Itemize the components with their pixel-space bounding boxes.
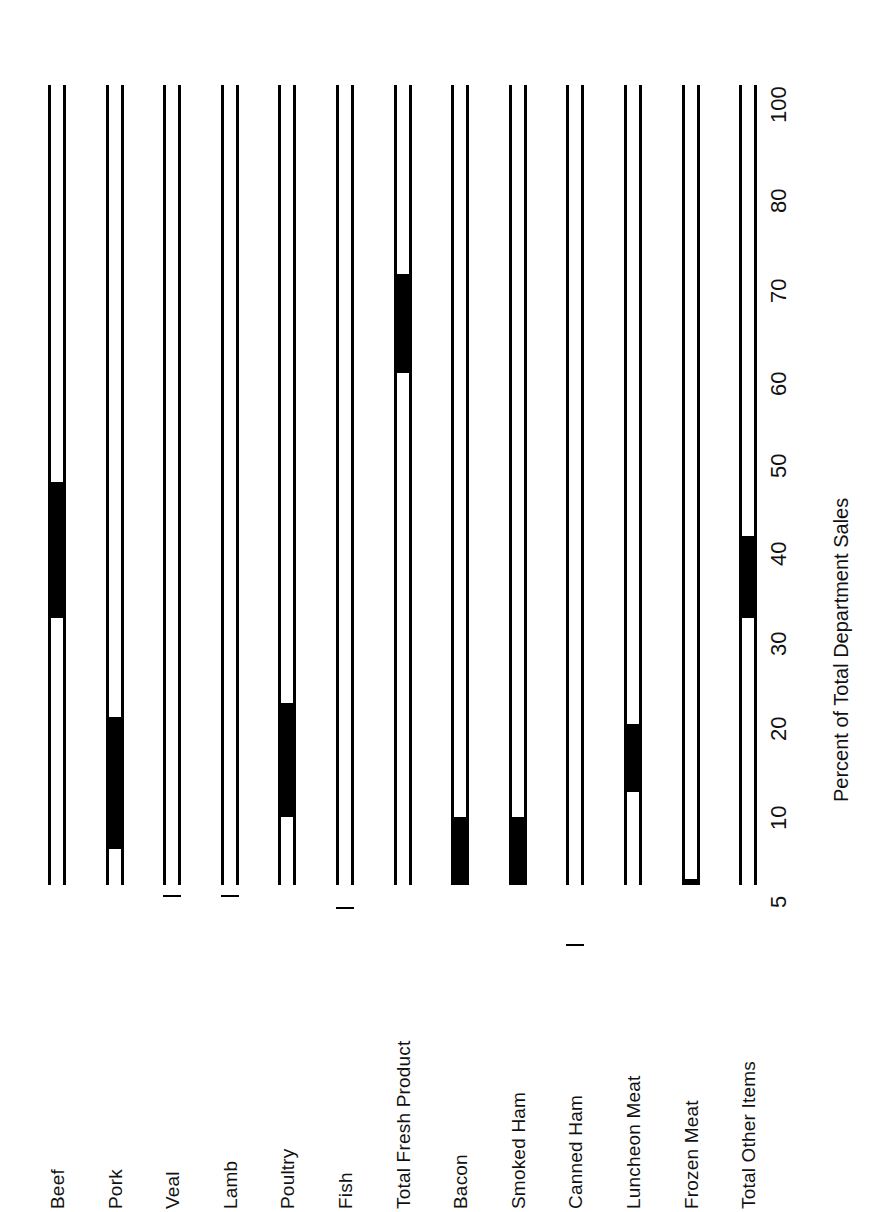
bar-total-other-items[interactable]: [739, 0, 757, 900]
bar-fill-segment: [509, 817, 527, 885]
bar-bacon[interactable]: [451, 0, 469, 900]
bar-frozen-meat[interactable]: [682, 0, 700, 900]
bar-outline: [451, 85, 469, 885]
bar-fill-segment: [106, 717, 124, 850]
category-label-smoked-ham: Smoked Ham: [509, 1092, 528, 1209]
bar-outline: [221, 85, 239, 885]
bar-canned-ham[interactable]: [566, 0, 584, 900]
chart-canvas: BeefPorkVealLambPoultryFishTotal Fresh P…: [0, 0, 881, 1212]
bar-veal[interactable]: [163, 0, 181, 900]
bar-smoked-ham[interactable]: [509, 0, 527, 900]
bar-fill-segment: [221, 895, 239, 897]
bar-fill-segment: [682, 879, 700, 885]
bar-outline: [163, 85, 181, 885]
bar-outline: [278, 85, 296, 885]
bar-fill-segment: [451, 817, 469, 885]
tick-label-5: 5: [768, 896, 790, 908]
bar-total-fresh-product[interactable]: [394, 0, 412, 900]
tick-label-40: 40: [768, 542, 790, 566]
tick-label-80: 80: [768, 189, 790, 213]
category-label-luncheon-meat: Luncheon Meat: [624, 1075, 643, 1209]
bar-fill-segment: [739, 536, 757, 618]
category-label-total-other-items: Total Other Items: [739, 1061, 758, 1209]
bar-outline: [624, 85, 642, 885]
bar-lamb[interactable]: [221, 0, 239, 900]
bar-beef[interactable]: [48, 0, 66, 900]
bar-fill-segment: [394, 274, 412, 374]
category-label-total-fresh-product: Total Fresh Product: [394, 1040, 413, 1209]
bar-fill-segment: [278, 703, 296, 817]
category-label-poultry: Poultry: [278, 1148, 297, 1209]
tick-label-70: 70: [768, 279, 790, 303]
bar-outline: [48, 85, 66, 885]
tick-label-30: 30: [768, 632, 790, 656]
tick-label-20: 20: [768, 717, 790, 741]
bar-outline: [394, 85, 412, 885]
bar-outline: [739, 85, 757, 885]
bar-outline: [682, 85, 700, 885]
bar-poultry[interactable]: [278, 0, 296, 900]
tick-label-50: 50: [768, 454, 790, 478]
category-label-fish: Fish: [336, 1172, 355, 1209]
plot-area: [0, 0, 770, 900]
category-label-frozen-meat: Frozen Meat: [682, 1100, 701, 1209]
bar-fish[interactable]: [336, 0, 354, 900]
bar-pork[interactable]: [106, 0, 124, 900]
bar-luncheon-meat[interactable]: [624, 0, 642, 900]
bar-fill-segment: [566, 944, 584, 946]
category-label-pork: Pork: [106, 1169, 125, 1209]
tick-label-100: 100: [768, 86, 790, 123]
category-label-bacon: Bacon: [451, 1154, 470, 1209]
axis-title: Percent of Total Department Sales: [831, 498, 851, 802]
category-label-veal: Veal: [163, 1171, 182, 1209]
bar-fill-segment: [624, 724, 642, 792]
category-label-lamb: Lamb: [221, 1161, 240, 1209]
bar-outline: [106, 85, 124, 885]
bar-outline: [336, 85, 354, 885]
tick-label-60: 60: [768, 372, 790, 396]
bar-outline: [566, 85, 584, 885]
category-label-canned-ham: Canned Ham: [566, 1095, 585, 1209]
tick-label-10: 10: [768, 806, 790, 830]
category-label-beef: Beef: [48, 1169, 67, 1209]
bar-fill-segment: [336, 907, 354, 909]
bar-fill-segment: [48, 482, 66, 618]
bar-fill-segment: [163, 895, 181, 897]
bar-outline: [509, 85, 527, 885]
